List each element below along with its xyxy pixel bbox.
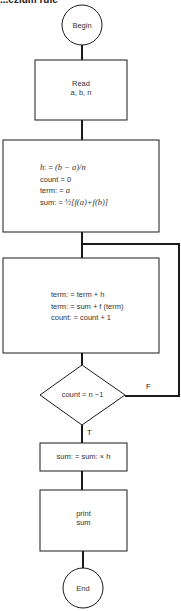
print-label: print — [40, 509, 127, 518]
loop-node: term: = term + h term: = sum + f (term) … — [51, 289, 157, 324]
init-line-count: count = 0 — [40, 174, 158, 186]
begin-label: Begin — [62, 21, 102, 30]
finalize-label: sum: = sum: × h — [40, 452, 127, 461]
false-branch-label: F — [146, 382, 151, 391]
end-label: End — [63, 584, 103, 593]
true-branch-label: T — [87, 428, 92, 437]
print-node: print sum — [40, 509, 127, 527]
read-label: Read — [35, 79, 127, 88]
init-node: h: = (b − a)/n count = 0 term: = a sum: … — [40, 162, 158, 208]
read-vars: a, b, n — [35, 88, 127, 97]
init-line-term: term: = a — [40, 185, 158, 197]
loop-line-count-increment: count: = count + 1 — [51, 312, 157, 324]
loop-line-sum-update: term: = sum + f (term) — [51, 301, 157, 313]
read-node: Read a, b, n — [35, 79, 127, 97]
print-var: sum — [40, 518, 127, 527]
loop-line-term-increment: term: = term + h — [51, 289, 157, 301]
init-line-sum: sum: = ½[f(a)+f(b)] — [40, 197, 158, 209]
decision-label: count = n −1 — [40, 390, 125, 399]
init-line-h: h: = (b − a)/n — [40, 162, 158, 174]
